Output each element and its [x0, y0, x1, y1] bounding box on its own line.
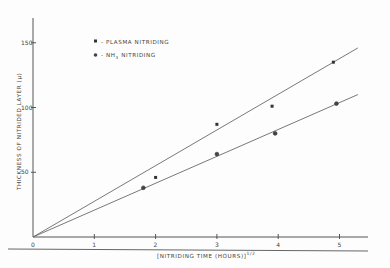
x-tick-label: 5 — [338, 241, 342, 248]
legend-marker-nh3 — [94, 53, 98, 57]
x-tick-label: 2 — [154, 241, 158, 248]
fit-line-nh3 — [33, 95, 358, 237]
legend-label-nh3: - NH3 NITRIDING — [101, 52, 156, 60]
x-tick-label: 3 — [215, 241, 219, 248]
x-tick-label: 0 — [31, 241, 35, 248]
x-tick-label: 1 — [92, 241, 96, 248]
data-point-nh3 — [215, 152, 219, 156]
data-point-nh3 — [335, 102, 339, 106]
data-point-plasma — [215, 123, 218, 126]
y-tick-label: 50 — [21, 168, 29, 175]
chart: 01234550100150- PLASMA NITRIDING- NH3 NI… — [0, 0, 390, 268]
page-rule — [8, 249, 368, 251]
x-tick-label: 4 — [276, 241, 280, 248]
x-axis-label: [NITRIDING TIME (HOURS)]1/2 — [157, 251, 256, 259]
data-point-plasma — [154, 176, 157, 179]
y-tick-label: 150 — [21, 39, 33, 46]
data-point-plasma — [332, 61, 335, 64]
data-point-plasma — [271, 105, 274, 108]
y-axis-label: THICKNESS OF NITRIDED LAYER (µ) — [16, 73, 23, 191]
data-point-nh3 — [273, 132, 277, 136]
legend-marker-plasma — [94, 40, 97, 43]
plot-area: 01234550100150- PLASMA NITRIDING- NH3 NI… — [16, 18, 368, 259]
legend-label-plasma: - PLASMA NITRIDING — [101, 39, 169, 45]
y-tick-label: 100 — [21, 104, 33, 111]
data-point-nh3 — [141, 186, 145, 190]
fit-line-plasma — [33, 48, 358, 237]
